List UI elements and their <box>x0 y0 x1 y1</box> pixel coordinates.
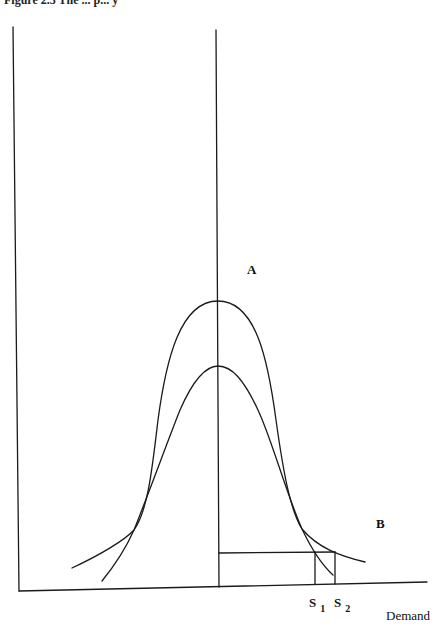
label-s2-sub: 2 <box>345 603 350 614</box>
y-axis-line <box>13 27 19 591</box>
service-level-line <box>219 552 335 553</box>
label-s2-main: S <box>334 595 341 610</box>
label-a: A <box>247 262 256 278</box>
label-s1-sub: 1 <box>320 603 325 614</box>
diagram-svg <box>0 0 442 627</box>
mean-line <box>216 30 219 587</box>
label-s1: S1 <box>309 595 325 611</box>
label-s1-main: S <box>309 595 316 610</box>
x-axis-label: Demand <box>386 608 430 624</box>
x-axis-line <box>19 582 427 591</box>
label-s2: S2 <box>334 595 350 611</box>
diagram-canvas: Figure 2.3 The ... p... y A B S1 S2 Dema… <box>0 0 442 627</box>
label-b: B <box>376 516 385 532</box>
